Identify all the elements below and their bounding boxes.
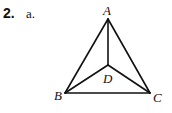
- label-c: C: [153, 90, 162, 105]
- segment-ac: [108, 19, 150, 93]
- segment-cd: [108, 65, 150, 93]
- label-a: A: [102, 3, 111, 18]
- label-b: B: [54, 88, 62, 103]
- segment-bd: [65, 65, 108, 93]
- segment-ab: [65, 19, 108, 93]
- tetrahedron-diagram: A B C D: [0, 0, 172, 113]
- label-d: D: [102, 71, 113, 86]
